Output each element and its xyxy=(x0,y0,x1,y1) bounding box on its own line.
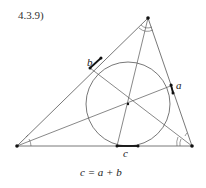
highlighted-segments xyxy=(90,58,173,146)
label-b: b xyxy=(87,56,93,68)
triangle xyxy=(17,18,192,146)
incircle-diagram: b a c c = a + b xyxy=(0,0,206,188)
vertex-left xyxy=(15,144,19,148)
incenter xyxy=(127,103,129,105)
vertex-top xyxy=(146,16,150,20)
label-c: c xyxy=(123,147,128,159)
equation: c = a + b xyxy=(80,166,122,178)
vertex-right xyxy=(190,144,194,148)
bisectors xyxy=(17,18,192,146)
label-a: a xyxy=(176,79,182,91)
points xyxy=(15,16,194,148)
